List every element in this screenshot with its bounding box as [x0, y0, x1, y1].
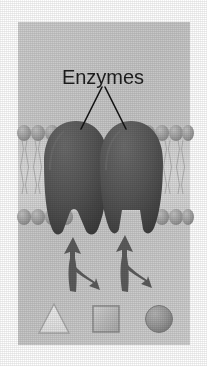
figure-canvas: Enzymes	[0, 0, 207, 366]
enzyme-membrane-figure: Enzymes	[0, 0, 207, 366]
substrate-square	[93, 306, 119, 332]
enzymes-label: Enzymes	[62, 66, 144, 88]
substrate-circle	[146, 306, 173, 333]
